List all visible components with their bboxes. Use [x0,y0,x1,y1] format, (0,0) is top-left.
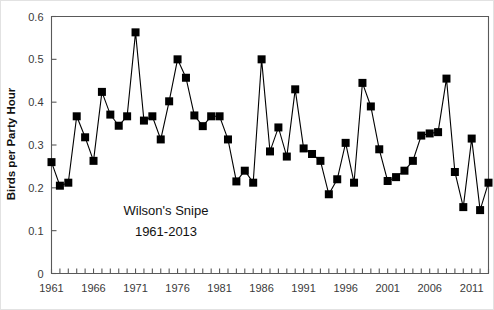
y-axis-tick-labels: 0.60.50.40.30.20.10 [28,11,43,280]
x-tick-label: 1966 [81,282,105,294]
data-point-marker [426,129,434,137]
data-point-marker [333,175,341,183]
y-tick-label: 0.4 [28,96,43,108]
chart-annotation-years: 1961-2013 [135,224,197,239]
x-tick-label: 1986 [249,282,273,294]
data-point-marker [342,139,350,147]
x-tick-label: 1981 [207,282,231,294]
data-point-marker [182,74,190,82]
data-point-marker [224,135,232,143]
data-point-marker [468,135,476,143]
data-point-marker [308,150,316,158]
y-tick-label: 0 [37,268,43,280]
data-point-marker [207,112,215,120]
data-point-marker [157,135,165,143]
data-point-marker [291,85,299,93]
data-point-marker [367,102,375,110]
data-point-marker [350,179,358,187]
data-point-marker [316,157,324,165]
data-point-marker [409,157,417,165]
data-point-marker [400,167,408,175]
data-point-marker [174,55,182,63]
data-point-marker [232,177,240,185]
data-point-marker [81,133,89,141]
data-point-marker [451,168,459,176]
data-point-marker [73,112,81,120]
chart-figure: 0.60.50.40.30.20.10 19611966197119761981… [0,0,494,310]
data-point-marker [266,147,274,155]
data-series-line [52,32,489,210]
data-point-marker [274,123,282,131]
x-tick-label: 2011 [460,282,484,294]
data-point-marker [199,122,207,130]
y-tick-label: 0.1 [28,225,43,237]
data-point-marker [123,112,131,120]
data-point-marker [283,153,291,161]
chart-annotation-species: Wilson's Snipe [124,203,209,218]
x-tick-label: 1996 [333,282,357,294]
data-point-marker [476,206,484,214]
y-axis-title: Birds per Party Hour [5,87,17,200]
data-point-marker [190,111,198,119]
data-point-marker [148,112,156,120]
data-point-marker [358,79,366,87]
x-tick-label: 2001 [375,282,399,294]
data-point-marker [392,173,400,181]
data-point-marker [300,144,308,152]
data-point-marker [485,179,493,187]
y-axis-tick-marks [52,17,57,274]
data-point-marker [64,179,72,187]
data-point-marker [165,97,173,105]
y-tick-label: 0.3 [28,139,43,151]
x-tick-label: 1971 [123,282,147,294]
x-tick-label: 2006 [417,282,441,294]
data-point-marker [434,128,442,136]
y-tick-label: 0.2 [28,182,43,194]
data-point-marker [417,132,425,140]
data-point-marker [48,158,56,166]
data-point-marker [216,112,224,120]
data-point-marker [132,28,140,36]
data-point-marker [98,88,106,96]
x-tick-label: 1961 [39,282,63,294]
data-point-marker [375,145,383,153]
data-point-marker [384,177,392,185]
data-point-marker [249,179,257,187]
data-point-marker [56,182,64,190]
x-tick-label: 1991 [291,282,315,294]
data-point-marker [90,157,98,165]
data-point-marker [325,190,333,198]
x-axis-tick-marks [52,269,489,274]
data-point-marker [115,122,123,130]
line-chart: 0.60.50.40.30.20.10 19611966197119761981… [1,1,494,310]
y-tick-label: 0.5 [28,53,43,65]
data-point-marker [442,75,450,83]
x-axis-tick-labels: 1961196619711976198119861991199620012006… [39,282,483,294]
plot-frame-border [52,17,489,274]
y-tick-label: 0.6 [28,11,43,23]
data-point-marker [258,55,266,63]
data-point-markers [48,28,493,214]
data-point-marker [241,167,249,175]
data-point-marker [106,111,114,119]
data-point-marker [459,203,467,211]
x-tick-label: 1976 [165,282,189,294]
data-point-marker [140,117,148,125]
